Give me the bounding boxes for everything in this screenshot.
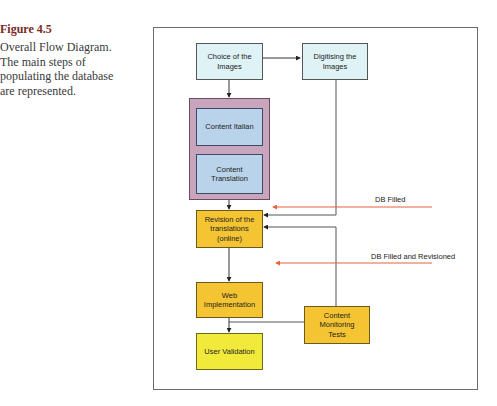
node-web-implementation: WebImplementation (196, 282, 263, 318)
node-choice-of-images: Choice of theImages (196, 43, 263, 80)
node-label: Content Italian (205, 122, 253, 132)
node-label: Content (216, 165, 242, 174)
node-label: Images (217, 62, 242, 71)
node-label: Choice of the (207, 52, 251, 61)
node-label: User Validation (204, 347, 254, 357)
node-label: Implementation (204, 300, 255, 309)
node-label: Translation (211, 174, 248, 183)
node-label: translations (210, 224, 248, 233)
node-label: Images (323, 62, 348, 71)
node-label: Tests (328, 330, 346, 339)
node-label: Content (324, 311, 350, 320)
node-content-italian: Content Italian (196, 108, 263, 146)
node-label: Digitising the (314, 52, 357, 61)
node-revision-translations: Revision of thetranslations(online) (196, 210, 263, 248)
node-user-validation: User Validation (196, 333, 263, 370)
node-digitising-images: Digitising theImages (302, 43, 368, 80)
annotation-db-filled: DB Filled (375, 195, 405, 204)
node-content-translation: ContentTranslation (196, 154, 263, 194)
node-content-monitoring-tests: ContentMonitoringTests (304, 306, 370, 344)
node-label: (online) (217, 234, 242, 243)
node-label: Revision of the (205, 215, 255, 224)
node-label: Web (222, 291, 237, 300)
node-label: Monitoring (319, 320, 354, 329)
annotation-db-filled-revisioned: DB Filled and Revisioned (371, 252, 455, 261)
